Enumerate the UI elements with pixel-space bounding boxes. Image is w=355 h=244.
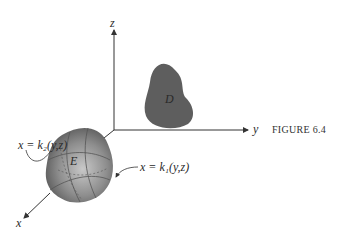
leader-k1 [116,167,138,177]
region-e-label: E [70,154,77,169]
figure-canvas [0,0,355,244]
surface-k2-label: x = k₂(y,z) [18,138,67,153]
y-axis-label: y [253,122,258,137]
region-d-label: D [165,92,174,107]
z-axis-label: z [110,16,115,31]
surface-k1-label: x = k₁(y,z) [140,160,189,175]
figure-caption: FIGURE 6.4 [272,124,326,135]
x-axis-label: x [16,216,21,231]
x-axis [24,193,50,218]
